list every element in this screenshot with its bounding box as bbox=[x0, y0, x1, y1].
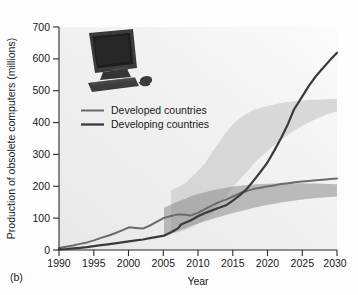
legend-label-developed-countries: Developed countries bbox=[111, 104, 207, 116]
obsolete-computers-line-chart: 0 100 200 300 400 500 600 700 1990 1995 … bbox=[0, 0, 358, 295]
x-axis-title: Year bbox=[187, 275, 209, 287]
x-tick-label: 2020 bbox=[256, 257, 280, 269]
y-tick-label: 300 bbox=[32, 148, 50, 160]
x-tick-label: 2010 bbox=[186, 257, 210, 269]
y-tick-label: 0 bbox=[44, 244, 50, 256]
y-tick-label: 500 bbox=[32, 84, 50, 96]
x-tick-label: 1990 bbox=[47, 257, 71, 269]
panel-label: (b) bbox=[10, 271, 23, 283]
y-axis-tick-labels: 0 100 200 300 400 500 600 700 bbox=[32, 21, 50, 256]
y-tick-label: 100 bbox=[32, 212, 50, 224]
x-tick-label: 1995 bbox=[82, 257, 106, 269]
x-tick-label: 2005 bbox=[152, 257, 176, 269]
x-tick-label: 2025 bbox=[291, 257, 315, 269]
figure-panel-b: 0 100 200 300 400 500 600 700 1990 1995 … bbox=[0, 0, 358, 295]
y-tick-label: 700 bbox=[32, 21, 50, 33]
y-tick-label: 400 bbox=[32, 116, 50, 128]
x-axis-ticks bbox=[59, 250, 337, 256]
legend-label-developing-countries: Developing countries bbox=[111, 118, 209, 130]
x-tick-label: 2030 bbox=[323, 257, 347, 269]
y-axis-title: Production of obsolete computers (millio… bbox=[5, 38, 17, 239]
x-axis-tick-labels: 1990 1995 2000 2005 2010 2015 2020 2025 … bbox=[47, 257, 347, 269]
y-axis-ticks bbox=[53, 27, 59, 250]
y-tick-label: 600 bbox=[32, 52, 50, 64]
x-tick-label: 2000 bbox=[117, 257, 141, 269]
x-tick-label: 2015 bbox=[221, 257, 245, 269]
y-tick-label: 200 bbox=[32, 180, 50, 192]
